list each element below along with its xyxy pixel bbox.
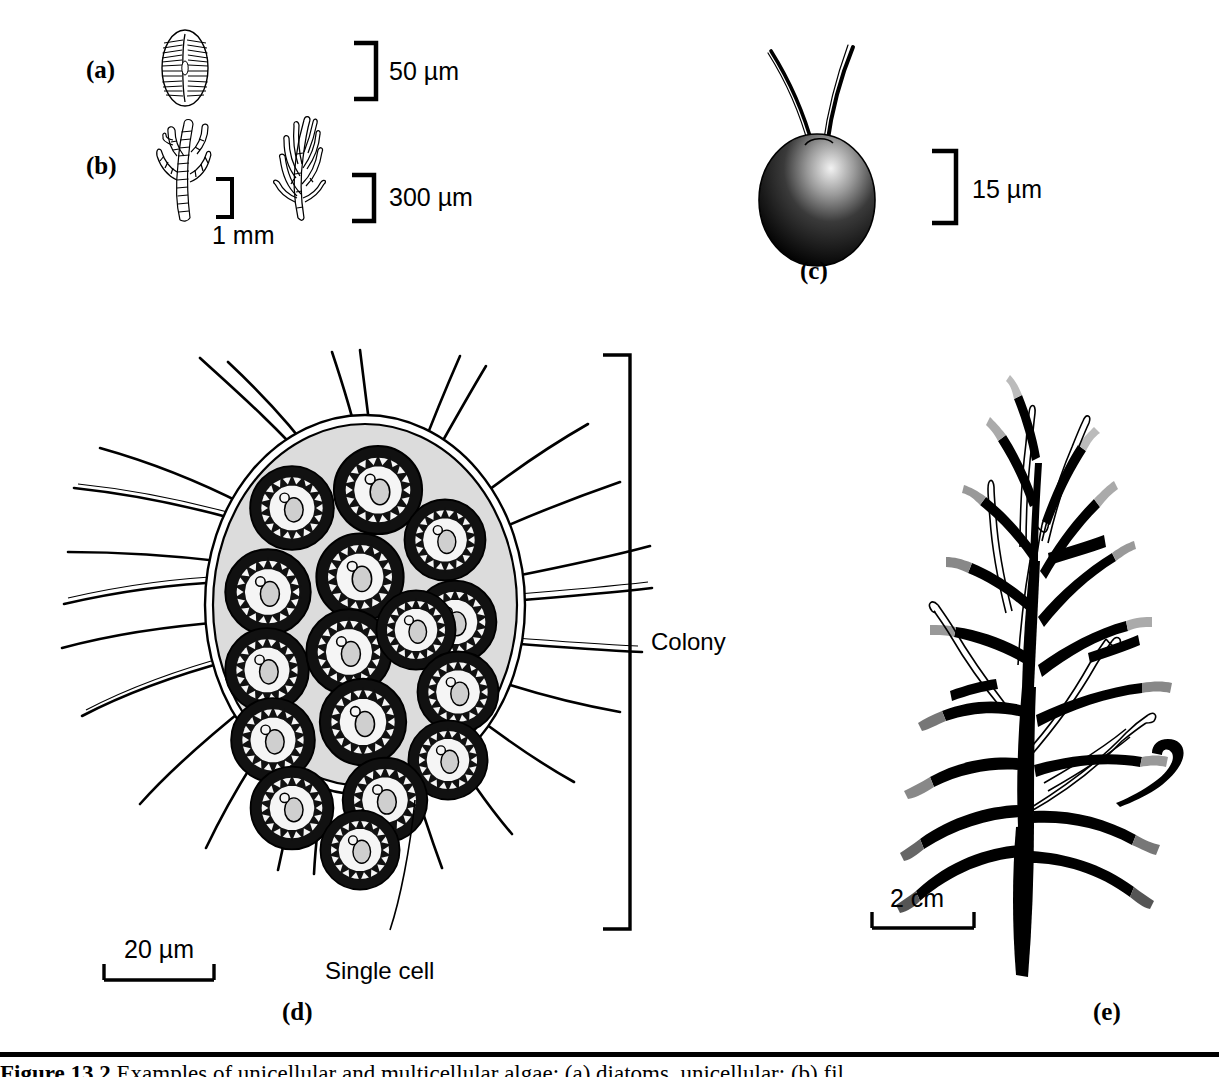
diatom-drawing <box>145 26 225 111</box>
scale-bracket-15um <box>930 148 966 226</box>
filamentous-alga-right-drawing <box>258 112 344 222</box>
scale-label-1mm: 1 mm <box>212 221 275 250</box>
macroalga-thallus-drawing <box>820 335 1219 995</box>
caption-number: Figure 13.2 <box>0 1061 111 1077</box>
scale-bar-20um <box>100 962 218 984</box>
caption-body: Examples of unicellular and multicellula… <box>116 1061 843 1077</box>
panel-label-a: (a) <box>86 56 115 84</box>
scale-bracket-1mm <box>214 176 240 220</box>
scale-label-2cm: 2 cm <box>890 884 944 913</box>
figure-caption: Figure 13.2 Examples of unicellular and … <box>0 1060 1219 1077</box>
figure-root: (a) 50 µm <box>0 0 1219 1077</box>
single-cell-label: Single cell <box>325 957 434 985</box>
scale-label-20um: 20 µm <box>124 935 194 964</box>
panel-label-c: (c) <box>800 257 828 285</box>
scale-label-15um: 15 µm <box>972 175 1042 204</box>
scale-bracket-50um <box>352 40 386 102</box>
scale-bracket-300um <box>350 172 384 224</box>
panel-label-e: (e) <box>1093 998 1121 1026</box>
panel-label-b: (b) <box>86 152 117 180</box>
scale-label-300um: 300 µm <box>389 183 473 212</box>
colony-cell-group <box>225 446 498 890</box>
panel-label-d: (d) <box>282 998 313 1026</box>
scale-label-50um: 50 µm <box>389 57 459 86</box>
colony-label: Colony <box>651 628 726 656</box>
scale-bar-2cm <box>868 910 978 932</box>
colony-drawing <box>60 330 680 930</box>
flagellate-cell-drawing <box>735 25 905 265</box>
caption-rule <box>0 1052 1219 1057</box>
colony-bracket <box>600 352 644 932</box>
